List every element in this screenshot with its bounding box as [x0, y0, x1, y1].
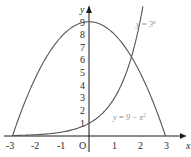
x-tick: -1 — [57, 140, 65, 151]
y-tick: 6 — [80, 54, 85, 65]
y-tick: 7 — [80, 42, 85, 53]
x-tick: 2 — [138, 140, 143, 151]
exponential-label: y = 3x — [135, 19, 156, 29]
x-tick: -3 — [6, 140, 14, 151]
x-tick: -2 — [31, 140, 39, 151]
y-tick: 3 — [80, 92, 85, 103]
x-axis-arrow-icon — [180, 133, 186, 139]
x-tick: 3 — [164, 140, 169, 151]
x-tick-labels: -3 -2 -1 O 1 2 3 — [6, 140, 169, 151]
y-tick: 4 — [80, 80, 85, 91]
x-tick-origin: O — [79, 140, 86, 151]
y-axis-label: y — [79, 4, 85, 15]
y-tick-labels: 1 2 3 4 5 6 7 8 9 — [80, 17, 85, 129]
y-tick: 5 — [80, 67, 85, 78]
y-tick: 2 — [80, 105, 85, 116]
y-tick: 8 — [80, 29, 85, 40]
x-axis-label: x — [185, 140, 191, 151]
x-tick: 1 — [112, 140, 117, 151]
graph: y x -3 -2 -1 O 1 2 3 1 2 3 4 5 6 7 8 9 y… — [0, 0, 191, 157]
parabola-label: y = 9 − x2 — [112, 112, 146, 122]
y-axis-arrow-icon — [86, 6, 92, 13]
